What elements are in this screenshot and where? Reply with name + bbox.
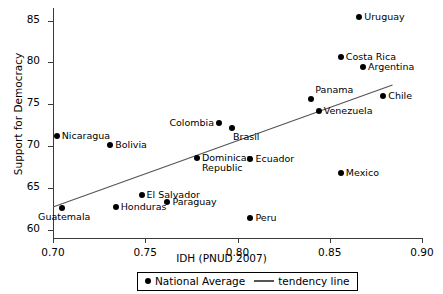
data-point — [360, 64, 366, 70]
data-point-label: Nicaragua — [62, 131, 110, 142]
y-tick-label: 65 — [27, 180, 40, 192]
x-tick-label: 0.80 — [220, 246, 256, 258]
y-tick: 65 — [48, 188, 53, 189]
y-tick: 85 — [48, 21, 53, 22]
data-point — [54, 133, 60, 139]
x-tick: 0.75 — [145, 238, 146, 243]
data-point-label: Peru — [255, 213, 276, 224]
data-point — [164, 199, 170, 205]
x-tick: 0.70 — [53, 238, 54, 243]
y-tick: 70 — [48, 146, 53, 147]
data-point — [380, 93, 386, 99]
data-point-label: Argentina — [368, 62, 414, 73]
data-point-label: Dominican Republic — [202, 153, 253, 174]
x-tick-label: 0.90 — [404, 246, 440, 258]
data-point — [113, 204, 119, 210]
y-tick-label: 80 — [27, 54, 40, 66]
legend-label-national-average: National Average — [155, 275, 245, 287]
chart-legend: National Average tendency line — [137, 272, 358, 291]
y-tick: 80 — [48, 62, 53, 63]
x-tick: 0.85 — [330, 238, 331, 243]
data-point — [247, 156, 253, 162]
data-point — [338, 170, 344, 176]
filled-circle-icon — [145, 278, 151, 284]
data-point-label: Colombia — [169, 118, 214, 129]
data-point-label: Mexico — [346, 168, 379, 179]
y-axis-line — [53, 8, 54, 238]
y-tick-label: 75 — [27, 96, 40, 108]
scatter-chart: Support for Democracy IDH (PNUD 2007) 60… — [0, 0, 443, 294]
legend-item-national-average: National Average — [145, 275, 245, 287]
data-point-label: Guatemala — [38, 212, 90, 223]
data-point — [338, 54, 344, 60]
x-tick-label: 0.75 — [127, 246, 163, 258]
legend-item-tendency-line: tendency line — [254, 275, 349, 287]
data-point-label: Bolivia — [115, 140, 147, 151]
data-point-label: Brasil — [233, 132, 259, 143]
data-point-label: Honduras — [121, 202, 167, 213]
data-point — [216, 120, 222, 126]
data-point — [316, 108, 322, 114]
data-point-label: Panama — [315, 85, 353, 96]
data-point-label: Venezuela — [324, 106, 373, 117]
line-icon — [254, 280, 274, 282]
y-tick: 60 — [48, 230, 53, 231]
x-tick-label: 0.70 — [35, 246, 71, 258]
data-point — [107, 142, 113, 148]
tendency-line — [53, 8, 422, 238]
data-point — [194, 155, 200, 161]
data-point — [247, 215, 253, 221]
data-point — [308, 96, 314, 102]
y-tick: 75 — [48, 104, 53, 105]
y-tick-label: 85 — [27, 13, 40, 25]
data-point-label: Paraguay — [172, 197, 216, 208]
data-point — [229, 125, 235, 131]
plot-area: 606570758085 0.700.750.800.850.90 Nicara… — [53, 8, 422, 238]
y-axis-title: Support for Democracy — [12, 44, 24, 184]
data-point-label: Uruguay — [364, 12, 404, 23]
y-tick-label: 70 — [27, 138, 40, 150]
data-point — [356, 14, 362, 20]
data-point-label: Ecuador — [255, 154, 294, 165]
data-point-label: Chile — [388, 91, 412, 102]
x-tick: 0.90 — [422, 238, 423, 243]
data-point — [139, 192, 145, 198]
y-tick-label: 60 — [27, 222, 40, 234]
x-tick: 0.80 — [238, 238, 239, 243]
legend-label-tendency-line: tendency line — [278, 275, 349, 287]
x-tick-label: 0.85 — [312, 246, 348, 258]
